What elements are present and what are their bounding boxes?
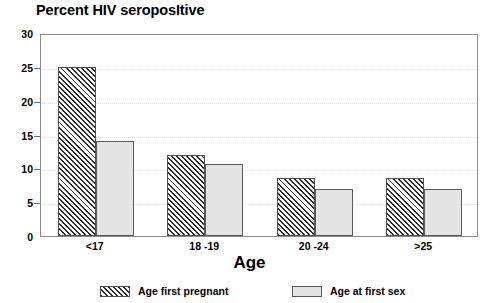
bar-chart: Percent HIV seroposItive 051015202530 <1… [0,0,499,303]
x-axis-title: Age [0,253,499,273]
x-axis-label: >25 [414,240,432,252]
x-axis-label: <17 [86,240,104,252]
gridline [41,103,477,105]
y-axis-label: 20 [5,96,33,107]
bar [386,178,424,236]
y-axis-label: 5 [5,198,33,209]
bar [96,141,134,236]
y-axis-tick [34,102,40,103]
bar [277,178,315,236]
legend-swatch-icon [292,286,322,297]
chart-title: Percent HIV seroposItive [36,2,204,18]
plot-area [40,34,478,237]
bar [58,67,96,236]
y-axis-tick [34,203,40,204]
y-axis-label: 25 [5,63,33,74]
legend-label: Age at first sex [330,285,405,297]
y-axis-label: 15 [5,130,33,141]
legend-item: Age at first sex [292,283,405,299]
bar [424,189,462,236]
y-axis-tick [34,136,40,137]
chart-legend: Age first pregnantAge at first sex [0,283,499,299]
y-axis-tick [34,169,40,170]
legend-swatch-icon [100,286,130,297]
x-axis-label: 18 -19 [189,240,219,252]
legend-label: Age first pregnant [138,285,228,297]
y-axis-label: 10 [5,164,33,175]
gridline [41,69,477,71]
gridline [41,137,477,139]
bar [315,189,353,236]
y-axis-label: 0 [5,232,33,243]
plot-inner [41,35,477,236]
bar [167,155,205,236]
y-axis-tick [34,68,40,69]
x-axis-label: 20 -24 [299,240,329,252]
legend-item: Age first pregnant [100,283,228,299]
bar [205,164,243,236]
y-axis-label: 30 [5,29,33,40]
